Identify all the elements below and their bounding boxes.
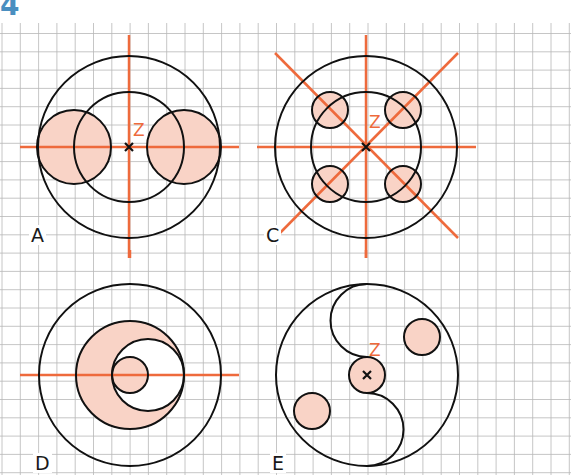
figure-label-d: D <box>33 453 52 473</box>
center-label-c: Z <box>369 113 381 131</box>
figure-d <box>20 250 239 466</box>
figure-label-e: E <box>270 453 286 473</box>
diagram-canvas <box>0 0 571 475</box>
center-label-e: Z <box>369 341 381 359</box>
figure-label-c: C <box>264 225 281 245</box>
center-label-a: Z <box>133 121 145 139</box>
figure-e <box>276 250 458 466</box>
figure-c <box>257 35 476 258</box>
figure-a <box>20 35 239 258</box>
figure-label-a: A <box>29 225 46 245</box>
